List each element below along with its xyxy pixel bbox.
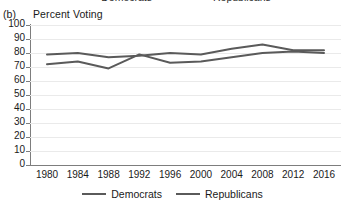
y-axis-tick-label: 100 [1,19,25,29]
y-axis-tick [26,67,30,68]
legend-item-democrats: Democrats [82,188,162,200]
legend-swatch-icon [82,193,106,195]
y-axis-tick-label: 70 [1,61,25,71]
y-axis-tick [26,137,30,138]
legend-label: Republicans [205,188,263,200]
y-axis-tick-label: 50 [1,89,25,99]
y-axis-tick [26,53,30,54]
percent-voting-chart: DemocratsRepublicans (b) Percent Voting … [0,0,345,205]
y-axis-labels: 1009080706050403020100 [0,0,25,205]
y-axis-title: Percent Voting [33,8,103,20]
legend-label: Republicans [213,0,271,3]
series-line-republicans [47,45,324,58]
y-axis-tick [26,151,30,152]
legend-label: Democrats [101,0,152,3]
x-axis-tick-label: 2016 [304,170,344,180]
top-legend-clipped: DemocratsRepublicans [0,0,345,8]
legend-label: Democrats [111,188,162,200]
gridline [30,165,341,166]
y-axis-tick [26,39,30,40]
y-axis-tick-label: 20 [1,131,25,141]
y-axis-tick-label: 40 [1,103,25,113]
y-axis-tick [26,81,30,82]
legend-swatch-icon [176,193,200,195]
y-axis-tick-label: 60 [1,75,25,85]
plot-area [30,25,341,165]
y-axis-tick-label: 30 [1,117,25,127]
y-axis-tick [26,95,30,96]
y-axis-tick [26,165,30,166]
legend-item-republicans: Republicans [176,188,263,200]
chart-legend: DemocratsRepublicans [0,188,345,200]
y-axis-tick [26,109,30,110]
y-axis-tick-label: 90 [1,33,25,43]
y-axis-tick [26,123,30,124]
y-axis-tick-label: 80 [1,47,25,57]
y-axis-tick-label: 0 [1,159,25,169]
legend-item-republicans: Republicans [186,0,271,3]
legend-item-democrats: Democrats [74,0,152,3]
y-axis-tick-label: 10 [1,145,25,155]
series-lines [30,25,341,165]
y-axis-tick [26,25,30,26]
